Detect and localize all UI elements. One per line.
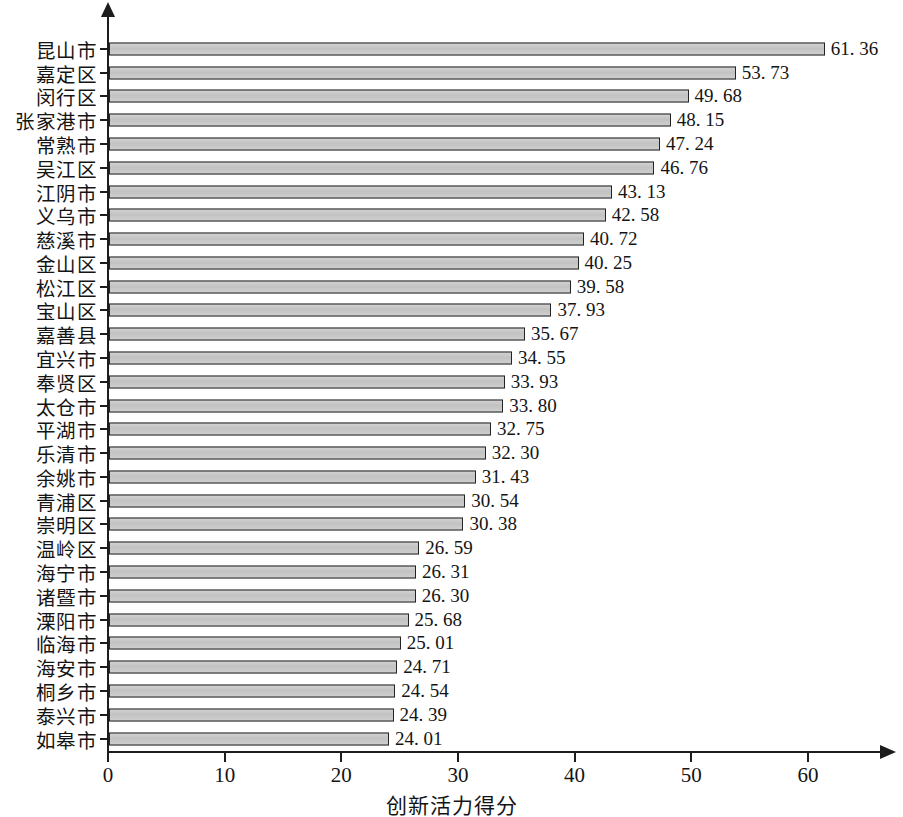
bar bbox=[109, 42, 825, 55]
bar bbox=[109, 566, 416, 579]
bar-row: 嘉善县35. 67 bbox=[0, 322, 903, 346]
bar-value-label: 33. 93 bbox=[511, 371, 559, 393]
bar bbox=[109, 114, 671, 127]
bar bbox=[109, 494, 465, 507]
bar bbox=[109, 637, 401, 650]
bar-value-label: 25. 01 bbox=[407, 632, 455, 654]
bar-value-label: 25. 68 bbox=[415, 609, 463, 631]
y-axis-tick bbox=[100, 214, 108, 216]
y-axis-tick bbox=[100, 642, 108, 644]
bar-value-label: 47. 24 bbox=[666, 133, 714, 155]
y-axis-tick bbox=[100, 738, 108, 740]
bar bbox=[109, 470, 476, 483]
bar-row: 青浦区30. 54 bbox=[0, 489, 903, 513]
bar bbox=[109, 138, 660, 151]
x-axis-tick bbox=[107, 753, 109, 762]
x-axis-tick-label: 20 bbox=[331, 763, 352, 788]
y-axis-tick bbox=[100, 119, 108, 121]
x-axis-tick-label: 40 bbox=[564, 763, 585, 788]
bar-row: 温岭区26. 59 bbox=[0, 536, 903, 560]
y-axis-tick bbox=[100, 595, 108, 597]
y-axis-tick bbox=[100, 428, 108, 430]
bar-value-label: 26. 59 bbox=[425, 537, 473, 559]
x-axis-tick-label: 60 bbox=[797, 763, 818, 788]
bar-value-label: 61. 36 bbox=[831, 38, 879, 60]
bar bbox=[109, 708, 394, 721]
y-axis-tick bbox=[100, 714, 108, 716]
bar-row: 临海市25. 01 bbox=[0, 632, 903, 656]
bar-value-label: 24. 71 bbox=[403, 656, 451, 678]
y-axis-tick bbox=[100, 48, 108, 50]
bar bbox=[109, 328, 525, 341]
x-axis-tick bbox=[807, 753, 809, 762]
y-axis-tick bbox=[100, 452, 108, 454]
bar-row: 金山区40. 25 bbox=[0, 251, 903, 275]
bar bbox=[109, 518, 463, 531]
y-axis-tick bbox=[100, 666, 108, 668]
bar-row: 宜兴市34. 55 bbox=[0, 346, 903, 370]
bar-chart: 昆山市61. 36嘉定区53. 73闵行区49. 68张家港市48. 15常熟市… bbox=[0, 0, 903, 817]
y-axis-tick bbox=[100, 72, 108, 74]
bar-value-label: 35. 67 bbox=[531, 323, 579, 345]
bar bbox=[109, 256, 579, 269]
category-label: 如皋市 bbox=[36, 724, 98, 753]
bar bbox=[109, 209, 606, 222]
bar-row: 松江区39. 58 bbox=[0, 275, 903, 299]
y-axis-tick bbox=[100, 405, 108, 407]
bar-row: 慈溪市40. 72 bbox=[0, 227, 903, 251]
bar-row: 常熟市47. 24 bbox=[0, 132, 903, 156]
y-axis-tick bbox=[100, 95, 108, 97]
y-axis-arrow-icon bbox=[101, 2, 115, 17]
bar-value-label: 40. 25 bbox=[585, 252, 633, 274]
y-axis-tick bbox=[100, 191, 108, 193]
bar-value-label: 26. 31 bbox=[422, 561, 470, 583]
y-axis-tick bbox=[100, 547, 108, 549]
bar-value-label: 53. 73 bbox=[742, 62, 790, 84]
y-axis-tick bbox=[100, 333, 108, 335]
bar bbox=[109, 304, 551, 317]
y-axis-tick bbox=[100, 167, 108, 169]
bar bbox=[109, 661, 397, 674]
x-axis-tick bbox=[340, 753, 342, 762]
bar bbox=[109, 185, 612, 198]
bar-row: 闵行区49. 68 bbox=[0, 85, 903, 109]
y-axis-tick bbox=[100, 571, 108, 573]
bar-row: 义乌市42. 58 bbox=[0, 203, 903, 227]
y-axis-tick bbox=[100, 143, 108, 145]
bar bbox=[109, 684, 395, 697]
y-axis-tick bbox=[100, 500, 108, 502]
bar bbox=[109, 423, 491, 436]
bar-value-label: 26. 30 bbox=[422, 585, 470, 607]
bar-row: 张家港市48. 15 bbox=[0, 108, 903, 132]
bar-value-label: 32. 75 bbox=[497, 418, 545, 440]
bar-value-label: 46. 76 bbox=[660, 157, 708, 179]
bar-value-label: 37. 93 bbox=[557, 299, 605, 321]
bar-row: 宝山区37. 93 bbox=[0, 299, 903, 323]
bar-value-label: 24. 54 bbox=[401, 680, 449, 702]
bar bbox=[109, 399, 503, 412]
bar-value-label: 30. 38 bbox=[469, 513, 517, 535]
bar-row: 余姚市31. 43 bbox=[0, 465, 903, 489]
bar-value-label: 49. 68 bbox=[695, 85, 743, 107]
bar bbox=[109, 161, 654, 174]
x-axis-arrow-icon bbox=[880, 745, 896, 759]
x-axis-tick-label: 10 bbox=[214, 763, 235, 788]
x-axis-tick-label: 0 bbox=[103, 763, 114, 788]
bar-row: 崇明区30. 38 bbox=[0, 513, 903, 537]
y-axis-tick bbox=[100, 262, 108, 264]
y-axis-tick bbox=[100, 286, 108, 288]
bar-row: 奉贤区33. 93 bbox=[0, 370, 903, 394]
bar-value-label: 24. 39 bbox=[400, 704, 448, 726]
bar-row: 昆山市61. 36 bbox=[0, 37, 903, 61]
bar bbox=[109, 732, 389, 745]
bar bbox=[109, 352, 512, 365]
bar bbox=[109, 613, 409, 626]
bar-row: 平湖市32. 75 bbox=[0, 417, 903, 441]
bar bbox=[109, 66, 736, 79]
y-axis-tick bbox=[100, 357, 108, 359]
bar-value-label: 48. 15 bbox=[677, 109, 725, 131]
bar-value-label: 24. 01 bbox=[395, 728, 443, 750]
bar-row: 江阴市43. 13 bbox=[0, 180, 903, 204]
bar-row: 诸暨市26. 30 bbox=[0, 584, 903, 608]
bar bbox=[109, 589, 416, 602]
